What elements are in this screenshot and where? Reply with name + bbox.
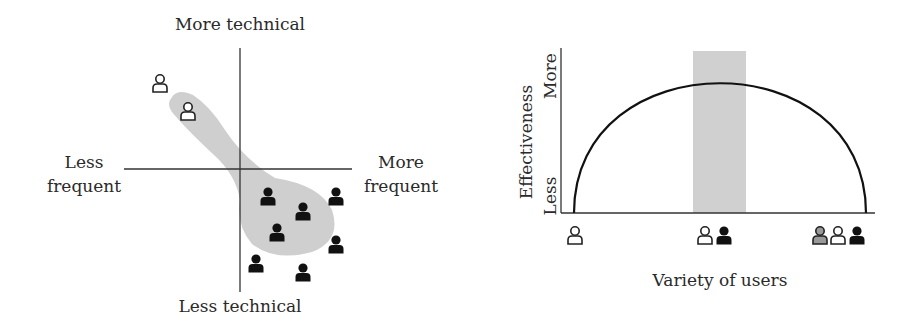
y-tick-more: More — [540, 46, 560, 106]
label-more-frequent-line1: More — [356, 152, 446, 172]
user-icon-outline — [153, 75, 167, 92]
user-icon-filled — [717, 226, 732, 244]
optimal-band — [693, 51, 746, 213]
label-less-frequent-line1: Less — [44, 152, 124, 172]
x-axis-label: Variety of users — [630, 270, 810, 290]
user-icon-gray — [813, 227, 827, 244]
label-less-frequent-line2: frequent — [44, 176, 124, 196]
label-less-technical: Less technical — [160, 296, 320, 316]
user-icon-outline — [698, 227, 712, 244]
user-icon-outline — [568, 227, 582, 244]
user-icon-filled — [329, 235, 344, 253]
user-icon-outline — [831, 227, 845, 244]
user-icon-filled — [850, 226, 865, 244]
user-icon-filled — [249, 254, 264, 272]
y-axis-label: Effectiveness — [516, 72, 536, 212]
label-more-frequent-line2: frequent — [356, 176, 446, 196]
user-icon-filled — [296, 263, 311, 281]
y-tick-less: Less — [540, 166, 560, 226]
label-more-technical: More technical — [160, 14, 320, 34]
user-icon-filled — [329, 187, 344, 205]
